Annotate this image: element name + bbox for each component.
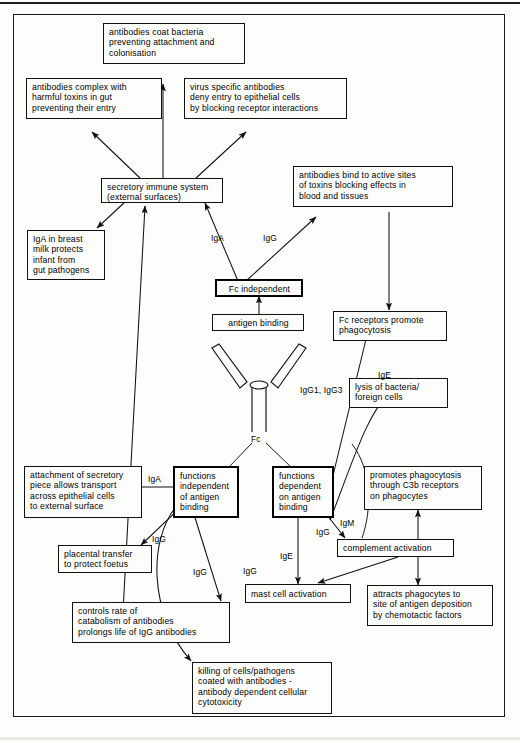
edge-label-ige-mast: IgE [280, 551, 293, 561]
edge-label-igg-toxin-sites: IgG [263, 233, 277, 243]
edge-label-iga-secretory: IgA [211, 233, 224, 243]
node-antigen-binding: antigen binding [212, 314, 304, 331]
edge-label-igg-catabolism: IgG [193, 567, 207, 577]
node-complex-toxins: antibodies complex with harmful toxins i… [26, 78, 162, 119]
node-lysis-bacteria: lysis of bacteria/ foreign cells [349, 378, 448, 408]
diagram-page: antibodies coat bacteria preventing atta… [0, 0, 520, 743]
edge-label-igg-killing: IgG [243, 566, 257, 576]
node-controls-catabolism: controls rate of catabolism of antibodie… [72, 602, 230, 643]
node-fc-independent: Fc independent [215, 279, 303, 297]
page-top-rule [0, 2, 520, 4]
page-bottom-artifact [0, 737, 520, 740]
node-attracts-phagocytes: attracts phagocytes to site of antigen d… [367, 585, 493, 626]
edge-label-iga-attachment: IgA [148, 474, 161, 484]
node-secretory-immune-system: secretory immune system (external surfac… [101, 178, 223, 203]
node-fc-receptors-phagocytosis: Fc receptors promote phagocytosis [333, 311, 447, 341]
node-bind-active-sites: antibodies bind to active sites of toxin… [293, 166, 453, 207]
edge-label-igg-complement: IgG [316, 527, 330, 537]
node-complement-activation: complement activation [337, 539, 454, 557]
edge-label-ige-fc-receptors: IgE [378, 370, 391, 380]
node-killing-cells: killing of cells/pathogens coated with a… [192, 662, 332, 714]
edge-label-igg-placental: IgG [152, 534, 166, 544]
node-attachment-secretory-piece: attachment of secretory piece allows tra… [24, 466, 142, 518]
node-placental-transfer: placental transfer to protect foetus [58, 545, 152, 573]
node-virus-specific: virus specific antibodies deny entry to … [184, 78, 347, 119]
node-functions-independent: functions independent of antigen binding [173, 466, 239, 518]
node-functions-dependent: functions dependent on antigen binding [272, 466, 334, 518]
antibody-fc-label: Fc [251, 434, 261, 444]
node-promotes-phagocytosis: promotes phagocytosis through C3b recept… [364, 466, 482, 510]
node-iga-breast-milk: IgA in breast milk protects infant from … [27, 230, 105, 280]
node-coat-bacteria: antibodies coat bacteria preventing atta… [103, 23, 245, 64]
edge-label-igm-complement: IgM [340, 518, 354, 528]
node-mast-cell-activation: mast cell activation [245, 584, 351, 603]
edge-label-igg1-igg3: IgG1, IgG3 [300, 385, 342, 395]
